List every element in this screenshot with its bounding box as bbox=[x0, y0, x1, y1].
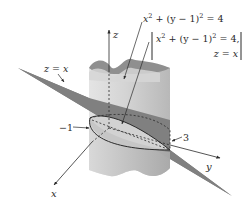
intersection-system: x2 + (y − 1)2 = 4, z = x bbox=[152, 32, 241, 60]
z-axis-label: z bbox=[112, 29, 119, 40]
x-axis-label: x bbox=[51, 188, 57, 199]
plane-eq-leader bbox=[58, 74, 64, 82]
tick-label-3: 3 bbox=[183, 132, 189, 143]
x-axis bbox=[54, 142, 92, 185]
diagram-canvas: z y x x2 + (y − 1)2 = 4 x2 + (y − 1)2 = … bbox=[0, 0, 251, 209]
cylinder-equation: x2 + (y − 1)2 = 4 bbox=[143, 12, 224, 24]
system-line-2: z = x bbox=[213, 48, 239, 59]
y-axis-label: y bbox=[205, 161, 212, 172]
tick-3-leader bbox=[172, 137, 182, 141]
tick-label-neg1: −1 bbox=[59, 122, 73, 133]
tick-neg1-leader bbox=[73, 127, 89, 128]
plane-equation-label: z = x bbox=[43, 63, 69, 74]
system-line-1: x2 + (y − 1)2 = 4, bbox=[156, 32, 240, 44]
